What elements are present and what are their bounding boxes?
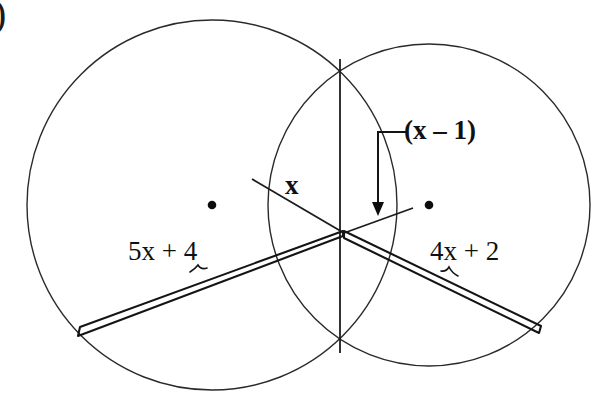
label-5x-plus-4: 5x + 4 — [128, 238, 197, 265]
diagram-canvas — [0, 0, 597, 406]
left-brace-tick-icon — [190, 265, 207, 272]
geometry-figure: ) x (x – 1) 5x + 4 4x + 2 — [0, 0, 597, 406]
right-brace-tick-icon — [441, 267, 458, 276]
left-double-line-5x-plus-4 — [78, 231, 343, 336]
problem-paren-marker: ) — [0, 0, 6, 34]
label-x-minus-1: (x – 1) — [404, 117, 476, 144]
label-radius-x: x — [285, 172, 299, 199]
right-circle-center-dot-icon — [425, 201, 434, 210]
x-minus-1-arrowhead-icon — [372, 202, 384, 216]
x-minus-1-leader-line — [378, 132, 406, 205]
left-circle-center-dot-icon — [208, 201, 217, 210]
label-4x-plus-2: 4x + 2 — [430, 238, 499, 265]
